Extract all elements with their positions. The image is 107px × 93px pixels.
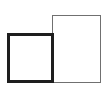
tall-rectangle (52, 15, 101, 83)
bold-square (7, 33, 54, 83)
